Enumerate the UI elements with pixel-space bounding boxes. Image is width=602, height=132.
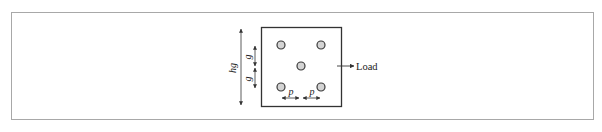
bolted-plate-diagram: hg g g p p Load [0, 0, 602, 132]
p-label-right: p [309, 86, 315, 97]
load-label: Load [356, 61, 378, 72]
bolt-group [277, 41, 325, 91]
g-label-upper: g [242, 55, 253, 60]
hg-label: hg [227, 63, 238, 73]
bolt-top-right [317, 41, 325, 49]
p-label-left: p [288, 86, 294, 97]
bolt-bottom-right [317, 83, 325, 91]
bolt-bottom-left [277, 83, 285, 91]
bolt-center [297, 62, 305, 70]
g-label-lower: g [242, 77, 253, 82]
bolt-top-left [277, 41, 285, 49]
